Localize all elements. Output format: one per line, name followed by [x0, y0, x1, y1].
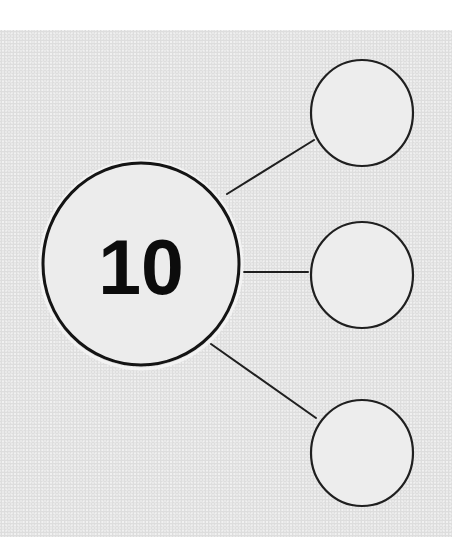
number-bond-diagram: 10 — [0, 0, 452, 542]
connector-line-bottom — [211, 344, 316, 418]
connector-line-top — [227, 140, 314, 194]
part-circle-middle[interactable] — [311, 222, 413, 328]
part-circle-bottom[interactable] — [311, 400, 413, 506]
whole-circle: 10 — [40, 161, 242, 369]
part-circle-top[interactable] — [311, 60, 413, 166]
whole-value: 10 — [98, 224, 184, 310]
